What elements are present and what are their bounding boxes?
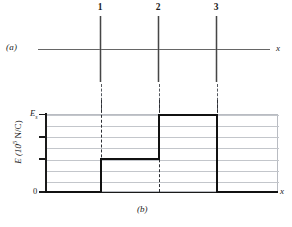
y-tick-label-es-sub: s	[35, 114, 37, 120]
y-tick-label-es: Es	[30, 108, 38, 120]
y-axis-title: E (105 N/C)	[11, 99, 23, 185]
y-tick-mid-2	[39, 158, 46, 160]
gridline-3	[46, 160, 279, 161]
plate-1-label: 1	[93, 2, 107, 12]
plate-1	[99, 16, 102, 82]
y-tick-label-zero: 0	[33, 186, 37, 196]
panel-b: Es 0 E (105 N/C) x (b)	[0, 100, 292, 227]
trace-segment-region-1	[45, 191, 101, 193]
trace-riser-plate-1	[100, 158, 102, 192]
plate-2	[157, 16, 160, 82]
panel-a-tag: (a)	[6, 42, 17, 52]
panel-a: (a) x 1 2 3	[0, 0, 292, 100]
y-tick-es	[39, 114, 46, 116]
figure-container: (a) x 1 2 3 Es	[0, 0, 292, 227]
gridline-2	[46, 171, 279, 172]
plate-3	[215, 16, 218, 82]
panel-a-axis-line	[38, 49, 270, 50]
y-axis-title-exponent: 5	[11, 141, 18, 144]
trace-drop-plate-3	[216, 114, 218, 193]
gridline-1	[46, 182, 279, 183]
panel-a-x-axis-label: x	[276, 43, 280, 53]
trace-segment-region-3	[158, 114, 217, 116]
gridline-6	[46, 126, 279, 127]
y-axis-title-prefix: E (10	[13, 144, 23, 164]
trace-segment-region-4	[216, 191, 278, 193]
gridline-4	[46, 148, 279, 149]
y-axis-title-suffix: N/C)	[13, 120, 23, 140]
trace-segment-region-2	[100, 158, 159, 160]
panel-b-tag: (b)	[137, 204, 148, 214]
y-tick-mid-5	[39, 136, 46, 138]
plate-2-label: 2	[151, 2, 165, 12]
plate-3-label: 3	[209, 2, 223, 12]
panel-b-x-axis-label: x	[280, 186, 284, 196]
y-axis-line	[45, 113, 47, 193]
gridline-5	[46, 137, 279, 138]
trace-riser-plate-2	[158, 114, 160, 161]
plot-area	[45, 114, 278, 192]
